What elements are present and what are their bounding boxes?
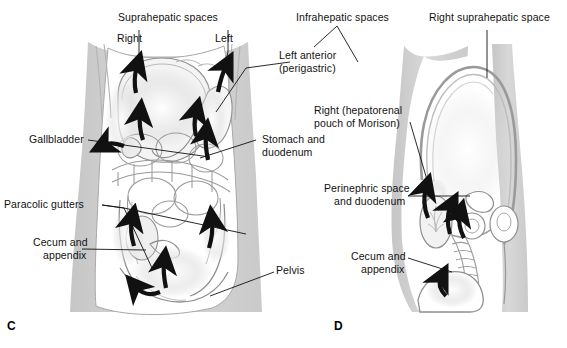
label-perinephric-space-line2: and duodenum [334, 196, 405, 208]
label-gallbladder: Gallbladder [29, 134, 84, 146]
label-left-anterior-line2: (perigastric) [279, 63, 336, 75]
leader-paracolic-right [102, 205, 246, 234]
label-suprahepatic-spaces: Suprahepatic spaces [118, 12, 218, 24]
label-right-suprahepatic-space: Right suprahepatic space [429, 12, 550, 24]
label-paracolic-gutters: Paracolic gutters [4, 199, 84, 211]
leader-cecum-appendix-c [82, 249, 146, 250]
panel-letter-d: D [334, 319, 343, 333]
leader-cecum-appendix-d [408, 258, 452, 272]
label-cecum-and-appendix-d-line1: Cecum and [351, 251, 406, 263]
leader-infrahepatic-left-branch [314, 26, 337, 47]
leader-perinephric-upper [408, 186, 424, 196]
label-right: Right [117, 33, 142, 45]
label-left: Left [215, 33, 233, 45]
label-pelvis: Pelvis [276, 265, 305, 277]
label-stomach-and-duodenum-line2: duodenum [262, 147, 312, 159]
leader-paracolic-left [102, 205, 152, 268]
panel-letter-c: C [7, 319, 16, 333]
figure-canvas: Suprahepatic spaces Right Left Gallbladd… [0, 0, 567, 348]
leader-stomach-duodenum [200, 140, 256, 158]
label-left-anterior-line1: Left anterior [279, 50, 336, 62]
label-right-hepatorenal-line2: pouch of Morison) [314, 118, 400, 130]
leader-hepatorenal-morison [410, 122, 430, 190]
label-cecum-and-appendix-c-line2: appendix [43, 250, 86, 262]
label-cecum-and-appendix-d-line2: appendix [361, 264, 404, 276]
leader-pelvis [210, 272, 274, 296]
label-cecum-and-appendix-c-line1: Cecum and [33, 237, 88, 249]
label-stomach-and-duodenum-line1: Stomach and [262, 134, 325, 146]
label-perinephric-space-line1: Perinephric space [324, 183, 410, 195]
leader-infrahepatic-right-branch [337, 26, 358, 62]
label-right-hepatorenal-line1: Right (hepatorenal [314, 105, 402, 117]
leader-gallbladder [88, 140, 210, 157]
label-infrahepatic-spaces: Infrahepatic spaces [296, 12, 389, 24]
